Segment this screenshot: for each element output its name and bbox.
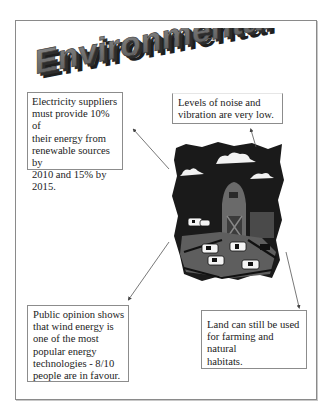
callout-line: habitats. bbox=[207, 356, 303, 368]
svg-text:Environmental: Environmental bbox=[35, 28, 271, 81]
callout-line: Levels of noise and bbox=[178, 97, 279, 109]
callout-line: 2015. bbox=[32, 181, 119, 193]
callout-line: technologies - 8/10 bbox=[33, 358, 125, 370]
callout-line: must provide 10% of bbox=[32, 108, 119, 132]
callout-land-use: Land can still be used for farming and n… bbox=[201, 310, 307, 369]
callout-line: for farming and natural bbox=[207, 331, 303, 355]
callout-line: that wind energy is bbox=[33, 321, 125, 333]
callout-line: vibration are very low. bbox=[178, 109, 279, 121]
page-title: Environmental Environmental Environmenta… bbox=[35, 28, 290, 83]
callout-noise-levels: Levels of noise and vibration are very l… bbox=[172, 93, 283, 124]
callout-line: popular energy bbox=[33, 346, 125, 358]
callout-public-opinion: Public opinion shows that wind energy is… bbox=[27, 305, 129, 382]
callout-line: one of the most bbox=[33, 333, 125, 345]
callout-line: 2010 and 15% by bbox=[32, 169, 119, 181]
wordart-title: Environmental Environmental Environmenta… bbox=[35, 28, 290, 83]
callout-line: people are in favour. bbox=[33, 370, 125, 382]
callout-line: Electricity suppliers bbox=[32, 96, 119, 108]
callout-line: Public opinion shows bbox=[33, 309, 125, 321]
farm-illustration bbox=[172, 140, 286, 284]
callout-line: Land can still be used bbox=[207, 319, 303, 331]
callout-renewable-targets: Electricity suppliers must provide 10% o… bbox=[27, 92, 123, 170]
farm-scene-icon bbox=[172, 140, 286, 284]
callout-line: their energy from bbox=[32, 133, 119, 145]
callout-line: renewable sources by bbox=[32, 145, 119, 169]
